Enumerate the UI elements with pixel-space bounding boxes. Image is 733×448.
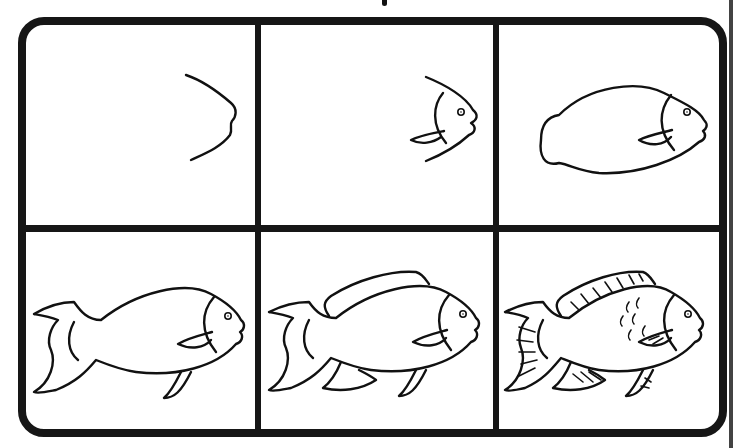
step-3-panel (499, 25, 711, 225)
top-mark (382, 0, 387, 6)
fish-head-drawing (261, 25, 493, 225)
scale-marks (621, 298, 645, 340)
step-4-panel (26, 232, 255, 429)
step-5-panel (261, 232, 493, 429)
page-edge (729, 0, 733, 448)
fish-with-fins-drawing (261, 232, 493, 429)
step-2-panel (261, 25, 493, 225)
fish-with-tail-drawing (26, 232, 255, 429)
horizontal-divider (26, 225, 719, 232)
fish-head-curve-drawing (26, 25, 255, 225)
finished-fish-drawing (499, 232, 711, 429)
fish-body-outline-drawing (499, 25, 711, 225)
step-6-panel (499, 232, 711, 429)
step-1-panel (26, 25, 255, 225)
tutorial-frame (18, 17, 727, 437)
